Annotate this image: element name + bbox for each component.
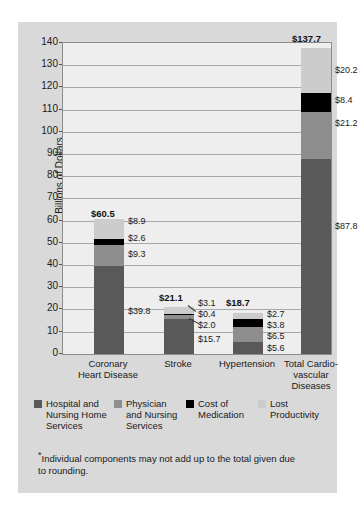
segment-physician-services [301, 112, 331, 159]
legend-hospital-line2: Nursing Home [46, 409, 107, 420]
label-stroke-hospital: $15.7 [198, 334, 221, 344]
label-stroke-medication: $0.4 [198, 309, 216, 319]
x-category-cardio-line2: vascular [280, 369, 342, 380]
y-tick-40: 40 [28, 259, 58, 269]
label-cardiovascular-hospital: $87.8 [335, 221, 358, 231]
x-category-coronary-line1: Coronary [68, 358, 148, 369]
x-category-coronary-line2: Heart Disease [68, 369, 148, 380]
y-tick-30: 30 [28, 281, 58, 291]
label-cardiovascular-lost: $20.2 [335, 65, 358, 75]
segment-hospital-services [164, 319, 194, 354]
bar-stroke[interactable] [164, 307, 194, 354]
legend-swatch-icon-lost-productivity [258, 400, 266, 408]
legend-label-physician: Physician and Nursing Services [126, 398, 177, 431]
label-coronary-hospital: $39.8 [128, 306, 151, 316]
chart-panel: 140 130 120 110 100 90 80 70 60 50 40 30… [18, 22, 337, 493]
legend-medication-line1: Cost of [198, 398, 228, 409]
label-coronary-physician: $9.3 [128, 249, 146, 259]
x-category-cardio-line3: Diseases [280, 380, 342, 391]
segment-hospital-services [301, 159, 331, 354]
bar-hypertension[interactable] [233, 313, 263, 354]
plot-area: $60.5 $8.9 $2.6 $9.3 $39.8 $21.1 $3.1 $0… [62, 42, 332, 355]
label-cardiovascular-medication: $8.4 [335, 95, 353, 105]
y-tick-10: 10 [28, 326, 58, 336]
bar-total-cardiovascular: $137.7 [292, 33, 321, 44]
legend-item-hospital-services[interactable]: Hospital and Nursing Home Services [34, 398, 114, 431]
legend-lost-line2: Productivity [270, 409, 319, 420]
segment-lost-productivity [94, 219, 124, 239]
label-hypertension-physician: $6.5 [267, 331, 285, 341]
segment-cost-of-medication [301, 93, 331, 112]
legend-medication-line2: Medication [198, 409, 244, 420]
legend-physician-line3: Services [126, 420, 162, 431]
label-stroke-lost: $3.1 [198, 298, 216, 308]
segment-physician-services [94, 245, 124, 266]
x-category-cardio-line1: Total Cardio- [280, 358, 342, 369]
legend-swatch-icon-medication [186, 400, 194, 408]
segment-cost-of-medication [233, 319, 263, 327]
bar-total-stroke: $21.1 [159, 292, 183, 303]
footnote-line1: Individual components may not add up to … [42, 453, 296, 464]
bar-total-cardiovascular-diseases[interactable] [301, 48, 331, 354]
y-tick-140: 140 [28, 37, 58, 47]
label-coronary-medication: $2.6 [128, 233, 146, 243]
bar-coronary-heart-disease[interactable] [94, 219, 124, 354]
x-category-stroke-line1: Stroke [143, 358, 213, 369]
segment-hospital-services [94, 266, 124, 354]
x-category-coronary-heart-disease: Coronary Heart Disease [68, 358, 148, 380]
chart-legend: Hospital and Nursing Home Services Physi… [34, 398, 334, 431]
legend-hospital-line1: Hospital and [46, 398, 99, 409]
y-tick-20: 20 [28, 303, 58, 313]
chart-footnote: *Individual components may not add up to… [38, 449, 323, 477]
legend-item-physician-services[interactable]: Physician and Nursing Services [114, 398, 186, 431]
bar-total-hypertension: $18.7 [226, 297, 250, 308]
legend-item-cost-of-medication[interactable]: Cost of Medication [186, 398, 258, 431]
segment-lost-productivity [301, 48, 331, 93]
y-tick-130: 130 [28, 59, 58, 69]
x-category-hypertension: Hypertension [207, 358, 287, 369]
x-category-stroke: Stroke [143, 358, 213, 369]
segment-physician-services [233, 327, 263, 341]
label-cardiovascular-physician: $21.2 [335, 118, 358, 128]
legend-physician-line2: and Nursing [126, 409, 177, 420]
y-tick-120: 120 [28, 81, 58, 91]
y-tick-0: 0 [28, 348, 58, 358]
bar-total-coronary: $60.5 [91, 208, 115, 219]
label-hypertension-lost: $2.7 [267, 309, 285, 319]
x-category-total-cardiovascular: Total Cardio- vascular Diseases [280, 358, 342, 391]
legend-lost-line1: Lost [270, 398, 288, 409]
segment-hospital-services [233, 342, 263, 354]
label-coronary-lost: $8.9 [128, 216, 146, 226]
footnote-line2: to rounding. [38, 465, 88, 476]
label-hypertension-hospital: $5.6 [267, 343, 285, 353]
label-hypertension-medication: $3.8 [267, 320, 285, 330]
legend-swatch-icon-hospital [34, 400, 42, 408]
x-category-hypertension-line1: Hypertension [207, 358, 287, 369]
legend-physician-line1: Physician [126, 398, 167, 409]
legend-swatch-icon-physician [114, 400, 122, 408]
legend-item-lost-productivity[interactable]: Lost Productivity [258, 398, 330, 431]
legend-label-medication: Cost of Medication [198, 398, 244, 420]
legend-label-lost-productivity: Lost Productivity [270, 398, 319, 420]
legend-label-hospital: Hospital and Nursing Home Services [46, 398, 107, 431]
plot-wrapper: $60.5 $8.9 $2.6 $9.3 $39.8 $21.1 $3.1 $0… [62, 42, 330, 375]
legend-hospital-line3: Services [46, 420, 82, 431]
label-stroke-physician: $2.0 [198, 320, 216, 330]
